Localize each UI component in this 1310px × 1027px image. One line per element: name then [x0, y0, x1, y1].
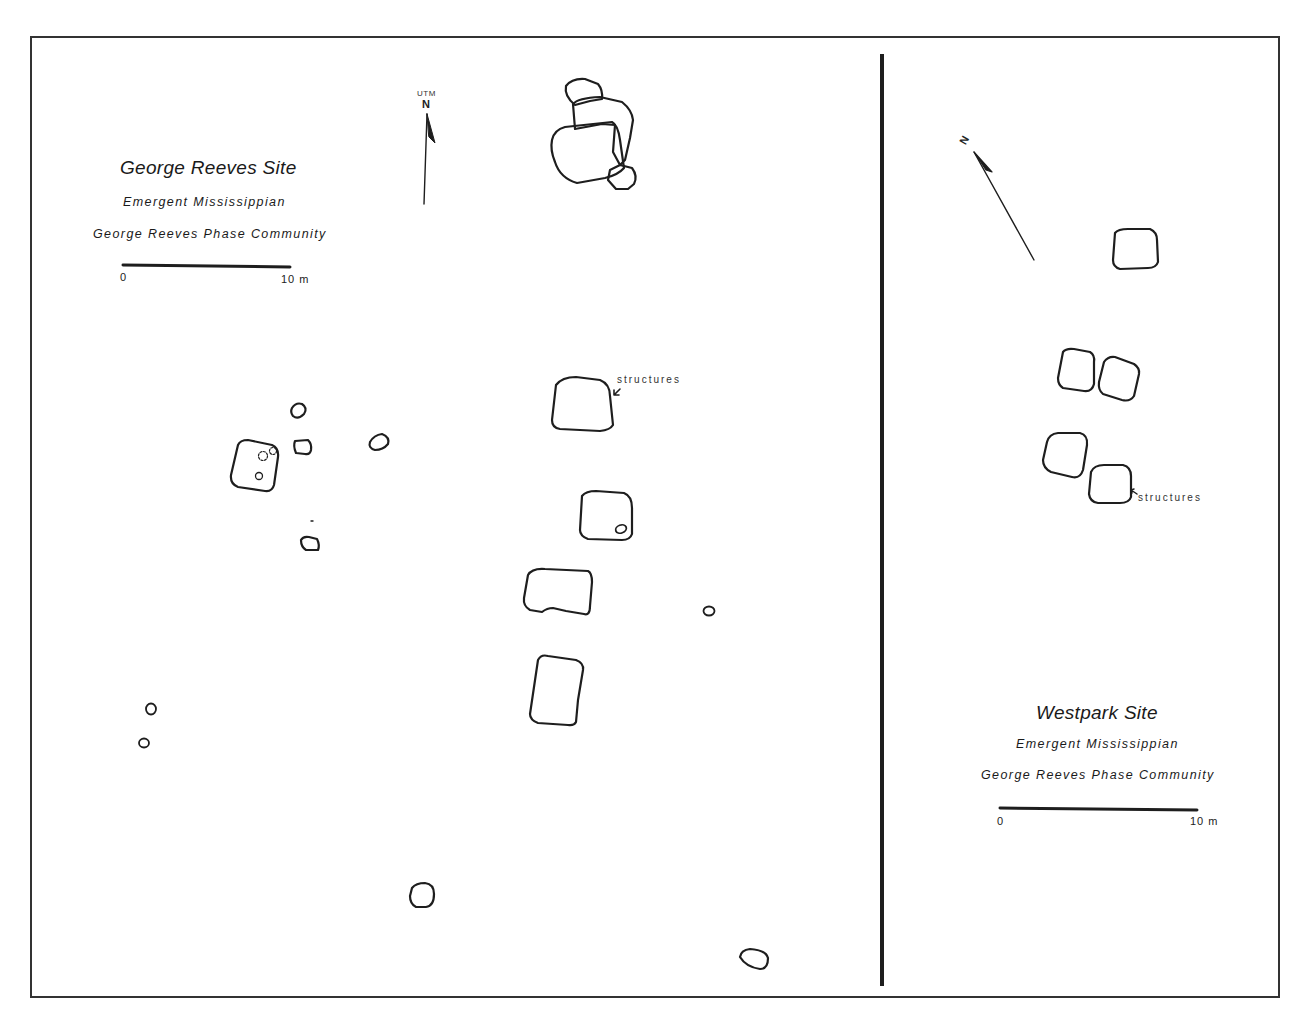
- utm-label: UTM: [417, 89, 436, 98]
- site-title: Westpark Site: [1036, 702, 1158, 724]
- structures-annotation: structures: [1138, 492, 1202, 503]
- figure-page: UTM N George Reeves Site Emergent Missis…: [0, 0, 1310, 1027]
- north-arrow-icon: [974, 152, 1034, 260]
- structure-cluster-top: [551, 79, 635, 189]
- structure: [552, 377, 613, 431]
- structure: [1043, 433, 1087, 477]
- structure: [1058, 349, 1094, 391]
- pit-feature: [740, 949, 768, 969]
- scale-start-label: 0: [120, 271, 127, 283]
- site-community: George Reeves Phase Community: [93, 227, 327, 241]
- site-plan-drawing: [0, 0, 1310, 1027]
- pit-feature: [301, 537, 319, 550]
- site-period: Emergent Mississippian: [123, 195, 286, 209]
- structure: [1113, 229, 1158, 269]
- structure: [1099, 357, 1139, 401]
- pit-feature: [146, 704, 156, 715]
- posthole: [259, 452, 268, 461]
- structure: [1089, 465, 1131, 503]
- structure: [530, 656, 583, 726]
- posthole: [614, 523, 627, 534]
- pit-feature: [291, 404, 305, 418]
- site-period: Emergent Mississippian: [1016, 737, 1179, 751]
- pit-feature: [370, 434, 389, 450]
- structures-annotation: structures: [617, 374, 681, 385]
- annotation-arrow-icon: [614, 389, 620, 395]
- scale-start-label: 0: [997, 815, 1004, 827]
- posthole: [256, 473, 263, 480]
- pit-feature: [410, 883, 434, 907]
- pit-feature: [704, 607, 715, 616]
- site-community: George Reeves Phase Community: [981, 768, 1215, 782]
- scale-bar: [1000, 808, 1197, 810]
- pit-feature: [294, 440, 311, 454]
- north-arrow-icon: [424, 114, 435, 204]
- north-label: N: [422, 98, 430, 110]
- scale-bar: [123, 265, 290, 267]
- posthole: [270, 448, 277, 455]
- pit-feature: [139, 739, 149, 748]
- scale-end-label: 10 m: [281, 273, 309, 285]
- annotation-arrow-icon: [1131, 489, 1137, 494]
- site-title: George Reeves Site: [120, 157, 297, 179]
- scale-end-label: 10 m: [1190, 815, 1218, 827]
- structure: [524, 569, 592, 614]
